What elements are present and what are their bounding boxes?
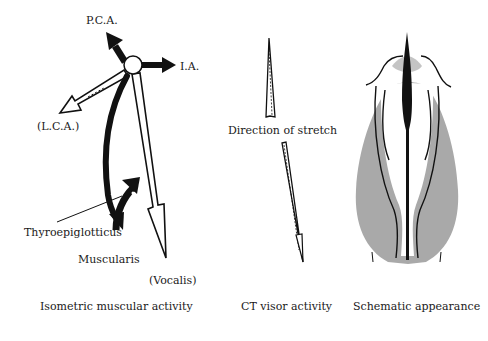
pca-arrow-icon [106,32,125,62]
vocalis-arrow-icon [132,73,166,258]
isometric-panel-graphic [57,32,176,258]
pca-label: P.C.A. [86,15,118,26]
ia-arrow-icon [140,57,176,73]
caption-ct-visor: CT visor activity [241,301,332,312]
thyroepiglotticus-label: Thyroepiglotticus [24,227,122,238]
stretch-arrow-up-icon [266,38,275,117]
figure-canvas [0,0,488,341]
vocalis-label: (Vocalis) [149,275,197,286]
muscularis-label: Muscularis [78,254,140,265]
direction-of-stretch-label: Direction of stretch [228,125,337,136]
caption-isometric: Isometric muscular activity [40,301,193,312]
thyroepiglotticus-arrow-icon [116,177,140,230]
joint-circle-icon [124,56,142,74]
lca-label: (L.C.A.) [37,121,79,132]
caption-schematic: Schematic appearance [353,301,480,312]
ct-visor-panel-graphic [266,38,303,262]
schematic-panel-graphic [356,32,458,264]
stretch-arrow-down-icon [282,142,303,262]
ia-label: I.A. [180,61,199,72]
